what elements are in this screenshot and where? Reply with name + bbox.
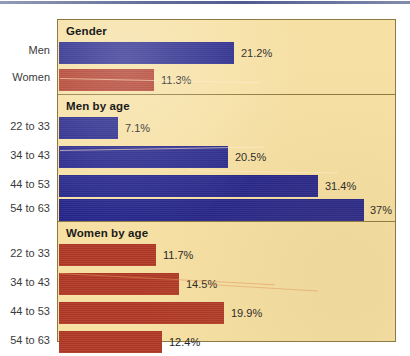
bar-row-men-22-33: 7.1% (58, 117, 395, 139)
category-label-women-44-53: 44 to 53 (0, 305, 50, 317)
bar-women-44-53 (59, 302, 224, 324)
bar-row-gender-women: 11.3% (58, 69, 395, 91)
panel-title-men-by-age: Men by age (66, 100, 130, 112)
bar-men-44-53 (59, 175, 318, 197)
bar-value-women-44-53: 19.9% (231, 307, 262, 319)
panel-gender: Gender 21.2% 11.3% (58, 20, 395, 94)
bar-gender-women (59, 69, 154, 91)
category-label-men-54-63: 54 to 63 (0, 202, 50, 214)
panel-title-gender: Gender (66, 25, 107, 37)
category-label-gender-men: Men (0, 44, 50, 56)
bar-row-men-34-43: 20.5% (58, 146, 395, 168)
bar-value-men-34-43: 20.5% (235, 151, 266, 163)
category-label-men-22-33: 22 to 33 (0, 120, 50, 132)
bar-row-women-22-33: 11.7% (58, 244, 395, 266)
chart-frame: Gender 21.2% 11.3% Men by age 7.1% 20.5%… (57, 19, 396, 342)
bar-row-men-44-53: 31.4% (58, 175, 395, 197)
top-divider-rule (0, 1, 410, 4)
bar-gender-men (59, 42, 234, 64)
bar-row-men-54-63: 37% (58, 199, 395, 221)
category-label-women-54-63: 54 to 63 (0, 334, 50, 346)
bar-row-women-54-63: 12.4% (58, 331, 395, 353)
bar-value-men-54-63: 37% (370, 204, 392, 216)
category-label-men-44-53: 44 to 53 (0, 178, 50, 190)
panel-men-by-age: Men by age 7.1% 20.5% 31.4% 37% (58, 94, 395, 221)
bar-value-women-34-43: 14.5% (186, 278, 217, 290)
bar-row-gender-men: 21.2% (58, 42, 395, 64)
bar-row-women-34-43: 14.5% (58, 273, 395, 295)
bar-women-54-63 (59, 331, 162, 353)
panel-title-women-by-age: Women by age (66, 227, 148, 239)
category-label-gender-women: Women (0, 71, 50, 83)
bar-men-34-43 (59, 146, 228, 168)
bar-row-women-44-53: 19.9% (58, 302, 395, 324)
bar-men-54-63 (59, 199, 364, 221)
category-label-men-34-43: 34 to 43 (0, 149, 50, 161)
bar-value-women-22-33: 11.7% (163, 249, 193, 261)
bar-value-men-44-53: 31.4% (325, 180, 356, 192)
bar-men-22-33 (59, 117, 118, 139)
bar-value-gender-women: 11.3% (161, 74, 191, 86)
panel-women-by-age: Women by age 11.7% 14.5% 19.9% 12.4% (58, 221, 395, 341)
bar-value-gender-men: 21.2% (241, 47, 272, 59)
category-label-women-34-43: 34 to 43 (0, 276, 50, 288)
bar-women-22-33 (59, 244, 156, 266)
bar-value-women-54-63: 12.4% (169, 336, 200, 348)
category-label-women-22-33: 22 to 33 (0, 247, 50, 259)
bar-value-men-22-33: 7.1% (125, 122, 150, 134)
bar-women-34-43 (59, 273, 179, 295)
